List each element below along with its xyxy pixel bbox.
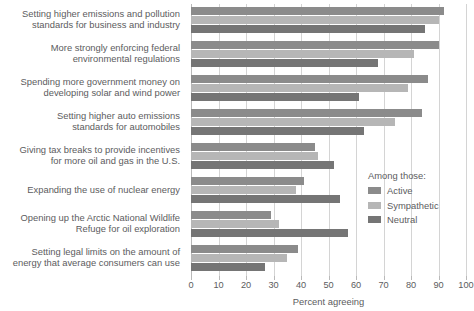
legend-items: ActiveSympatheticNeutral	[368, 185, 439, 225]
category-label: Expanding the use of nuclear energy	[0, 184, 180, 195]
x-tick-label: 60	[351, 280, 361, 290]
category-label: Spending more government money on develo…	[0, 76, 180, 98]
gridline	[466, 4, 467, 276]
gridline	[439, 4, 440, 276]
category-label: Giving tax breaks to provide incentives …	[0, 144, 180, 166]
category-axis-labels: Setting higher emissions and pollution s…	[0, 0, 186, 276]
bar	[191, 16, 439, 24]
x-tick-label: 50	[323, 280, 333, 290]
legend-item[interactable]: Active	[368, 185, 439, 196]
bar	[191, 50, 414, 58]
bar	[191, 220, 279, 228]
bar	[191, 186, 296, 194]
bar	[191, 59, 378, 67]
x-tick-label: 80	[406, 280, 416, 290]
legend-swatch	[368, 216, 381, 223]
bar	[191, 263, 265, 271]
bar	[191, 177, 304, 185]
bar	[191, 245, 298, 253]
legend-swatch	[368, 202, 381, 209]
legend-swatch	[368, 187, 381, 194]
bar	[191, 75, 428, 83]
legend-label: Sympathetic	[387, 200, 439, 211]
bar	[191, 195, 340, 203]
x-tick-label: 90	[433, 280, 443, 290]
category-label: Setting higher emissions and pollution s…	[0, 8, 180, 30]
x-tick-label: 10	[213, 280, 223, 290]
category-label: Setting legal limits on the amount of en…	[0, 246, 180, 268]
x-axis-ticks: 0102030405060708090100	[191, 276, 466, 292]
bar	[191, 7, 444, 15]
legend: Among those: ActiveSympatheticNeutral	[368, 170, 439, 229]
bar	[191, 143, 315, 151]
bar	[191, 84, 408, 92]
bar	[191, 127, 364, 135]
x-tick-label: 70	[378, 280, 388, 290]
x-tick-label: 100	[458, 280, 473, 290]
plot-area	[191, 4, 466, 276]
legend-label: Neutral	[387, 214, 417, 225]
category-label: Opening up the Arctic National Wildlife …	[0, 212, 180, 234]
bar	[191, 118, 395, 126]
x-tick-label: 40	[296, 280, 306, 290]
bar	[191, 25, 425, 33]
legend-item[interactable]: Sympathetic	[368, 200, 439, 211]
bar	[191, 41, 439, 49]
bar	[191, 254, 287, 262]
bar	[191, 109, 422, 117]
bar	[191, 211, 271, 219]
bar	[191, 152, 318, 160]
x-tick-label: 0	[188, 280, 193, 290]
bar	[191, 93, 359, 101]
bar	[191, 229, 348, 237]
legend-label: Active	[387, 185, 413, 196]
x-axis-title: Percent agreeing	[191, 296, 466, 307]
x-tick-label: 30	[268, 280, 278, 290]
legend-title: Among those:	[368, 170, 439, 181]
category-label: Setting higher auto emissions standards …	[0, 110, 180, 132]
category-label: More strongly enforcing federal environm…	[0, 42, 180, 64]
x-tick-label: 20	[241, 280, 251, 290]
bar	[191, 161, 334, 169]
legend-item[interactable]: Neutral	[368, 214, 439, 225]
